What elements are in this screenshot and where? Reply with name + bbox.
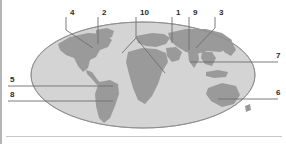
callout-label-4[interactable]: 4 — [70, 8, 75, 17]
world-map — [31, 22, 255, 128]
callout-label-8[interactable]: 8 — [10, 90, 15, 99]
bottom-separator-rule — [6, 136, 282, 137]
callout-label-10[interactable]: 10 — [140, 8, 149, 17]
callout-label-5[interactable]: 5 — [10, 75, 15, 84]
callout-label-2[interactable]: 2 — [102, 8, 107, 17]
callout-label-7[interactable]: 7 — [276, 51, 281, 60]
figure-canvas: 4 2 10 1 9 3 5 8 7 6 — [0, 0, 286, 144]
callout-label-1[interactable]: 1 — [176, 8, 181, 17]
callout-label-3[interactable]: 3 — [219, 8, 224, 17]
callout-label-6[interactable]: 6 — [276, 88, 281, 97]
callout-label-9[interactable]: 9 — [193, 8, 198, 17]
left-margin-rule — [0, 0, 2, 144]
